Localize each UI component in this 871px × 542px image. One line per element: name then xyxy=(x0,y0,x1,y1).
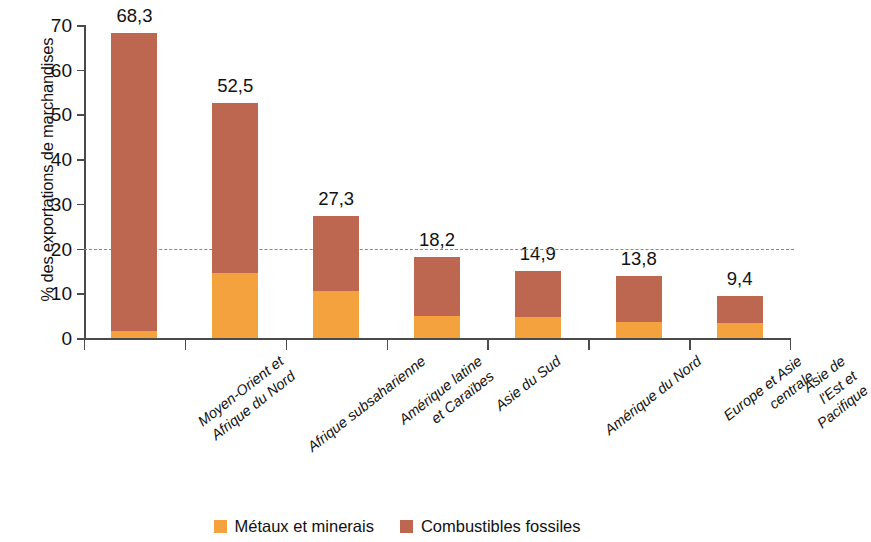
bar-segment-combustibles-fossiles xyxy=(313,216,359,291)
y-tick-label-60: 60 xyxy=(51,60,72,79)
y-axis-line xyxy=(84,25,86,338)
legend-swatch-metaux-icon xyxy=(214,520,227,533)
bar-segment-combustibles-fossiles xyxy=(616,276,662,322)
bar-7[interactable] xyxy=(717,296,763,338)
legend: Métaux et minerais Combustibles fossiles xyxy=(0,517,794,536)
y-tick-50 xyxy=(77,114,85,116)
y-tick-label-30: 30 xyxy=(51,194,72,213)
y-tick-40 xyxy=(77,159,85,161)
bar-value-label-4: 18,2 xyxy=(419,229,455,251)
bar-segment-metaux-et-minerais xyxy=(313,291,359,338)
bar-4[interactable] xyxy=(414,257,460,338)
x-tick-7 xyxy=(790,338,791,350)
bar-segment-combustibles-fossiles xyxy=(717,296,763,323)
y-tick-10 xyxy=(77,293,85,295)
y-tick-label-0: 0 xyxy=(61,329,72,348)
bar-segment-metaux-et-minerais xyxy=(212,273,258,338)
x-tick-4 xyxy=(487,338,488,350)
y-tick-30 xyxy=(77,204,85,206)
bar-segment-combustibles-fossiles xyxy=(515,271,561,317)
bar-value-label-3: 27,3 xyxy=(318,188,354,210)
x-tick-5 xyxy=(588,338,589,350)
bar-segment-combustibles-fossiles xyxy=(414,257,460,316)
bar-5[interactable] xyxy=(515,271,561,338)
legend-item-combustibles: Combustibles fossiles xyxy=(400,517,581,536)
x-category-label-6: Europe et Asie centrale xyxy=(702,352,817,453)
y-tick-label-70: 70 xyxy=(51,16,72,35)
x-axis-line xyxy=(84,338,790,340)
x-category-label-5: Amérique du Nord xyxy=(601,352,705,439)
bar-segment-combustibles-fossiles xyxy=(212,103,258,273)
bar-value-label-2: 52,5 xyxy=(217,75,253,97)
x-tick-2 xyxy=(286,338,287,350)
y-tick-label-10: 10 xyxy=(51,284,72,303)
legend-label-metaux: Métaux et minerais xyxy=(235,517,374,536)
y-tick-label-50: 50 xyxy=(51,105,72,124)
y-tick-60 xyxy=(77,70,85,72)
x-tick-1 xyxy=(185,338,186,350)
bar-value-label-7: 9,4 xyxy=(727,268,753,290)
x-category-label-1: Moyen-Orient et Afrique du Nord xyxy=(194,352,299,445)
bar-value-label-5: 14,9 xyxy=(520,243,556,265)
reference-line-20 xyxy=(84,249,794,250)
legend-swatch-combustibles-icon xyxy=(400,520,413,533)
x-tick-6 xyxy=(689,338,690,350)
y-tick-label-20: 20 xyxy=(51,239,72,258)
bar-segment-metaux-et-minerais xyxy=(111,331,157,338)
y-tick-70 xyxy=(77,25,85,27)
y-tick-label-40: 40 xyxy=(51,150,72,169)
bar-6[interactable] xyxy=(616,276,662,338)
bar-1[interactable] xyxy=(111,33,157,338)
bar-2[interactable] xyxy=(212,103,258,338)
x-tick-3 xyxy=(387,338,388,350)
legend-label-combustibles: Combustibles fossiles xyxy=(421,517,581,536)
plot-area: 010203040506070 68,352,527,318,214,913,8… xyxy=(84,25,790,338)
bar-segment-metaux-et-minerais xyxy=(414,316,460,338)
x-category-label-4: Asie du Sud xyxy=(492,352,565,415)
legend-item-metaux: Métaux et minerais xyxy=(214,517,374,536)
bar-segment-metaux-et-minerais xyxy=(515,317,561,338)
x-tick-0 xyxy=(84,338,85,350)
bar-segment-combustibles-fossiles xyxy=(111,33,157,331)
bar-segment-metaux-et-minerais xyxy=(717,323,763,338)
bar-3[interactable] xyxy=(313,216,359,338)
bar-segment-metaux-et-minerais xyxy=(616,322,662,338)
bar-value-label-6: 13,8 xyxy=(621,248,657,270)
bar-value-label-1: 68,3 xyxy=(116,5,152,27)
